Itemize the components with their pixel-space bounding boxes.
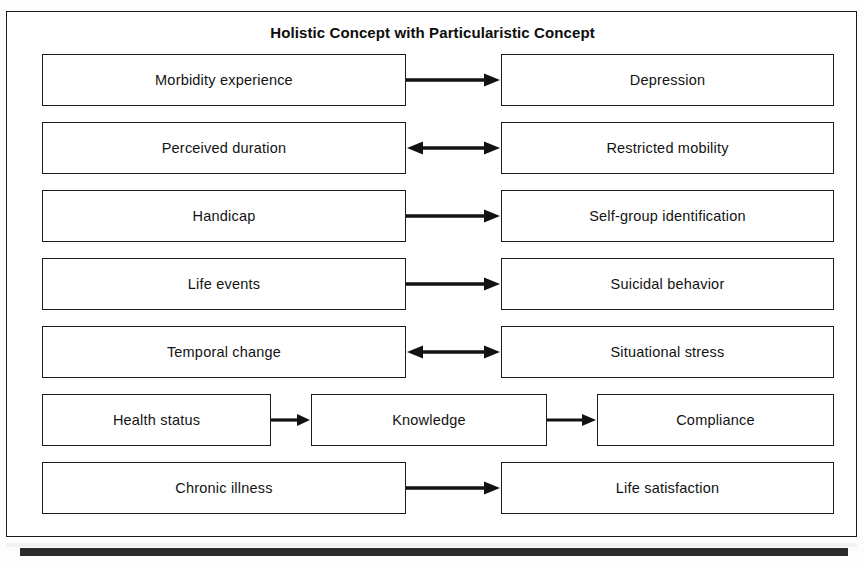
node-box: Perceived duration bbox=[42, 122, 406, 174]
diagram-row: Chronic illness Life satisfaction bbox=[42, 462, 834, 514]
node-box: Morbidity experience bbox=[42, 54, 406, 106]
diagram-row: Handicap Self-group identification bbox=[42, 190, 834, 242]
node-box: Suicidal behavior bbox=[501, 258, 834, 310]
node-box: Knowledge bbox=[311, 394, 547, 446]
page-edge-highlight bbox=[6, 543, 857, 547]
node-box: Depression bbox=[501, 54, 834, 106]
node-box: Situational stress bbox=[501, 326, 834, 378]
concept-diagram-figure: Holistic Concept with Particularistic Co… bbox=[0, 0, 865, 562]
node-box: Temporal change bbox=[42, 326, 406, 378]
node-box: Restricted mobility bbox=[501, 122, 834, 174]
node-box: Health status bbox=[42, 394, 271, 446]
node-box: Life satisfaction bbox=[501, 462, 834, 514]
node-box: Compliance bbox=[597, 394, 834, 446]
arrow-double-icon bbox=[406, 344, 501, 360]
diagram-row: Morbidity experience Depression bbox=[42, 54, 834, 106]
diagram-row: Life events Suicidal behavior bbox=[42, 258, 834, 310]
diagram-frame: Holistic Concept with Particularistic Co… bbox=[6, 11, 857, 537]
arrow-single-icon bbox=[406, 72, 501, 88]
page-edge-band bbox=[20, 548, 848, 556]
arrow-single-icon bbox=[406, 480, 501, 496]
arrow-single-icon bbox=[406, 276, 501, 292]
arrow-single-icon bbox=[271, 412, 311, 428]
diagram-row: Health status Knowledge Compliance bbox=[42, 394, 834, 446]
arrow-double-icon bbox=[406, 140, 501, 156]
node-box: Chronic illness bbox=[42, 462, 406, 514]
node-box: Self-group identification bbox=[501, 190, 834, 242]
arrow-single-icon bbox=[547, 412, 597, 428]
diagram-title: Holistic Concept with Particularistic Co… bbox=[7, 24, 858, 41]
diagram-row: Perceived duration Restricted mobility bbox=[42, 122, 834, 174]
node-box: Life events bbox=[42, 258, 406, 310]
arrow-single-icon bbox=[406, 208, 501, 224]
diagram-row: Temporal change Situational stress bbox=[42, 326, 834, 378]
node-box: Handicap bbox=[42, 190, 406, 242]
